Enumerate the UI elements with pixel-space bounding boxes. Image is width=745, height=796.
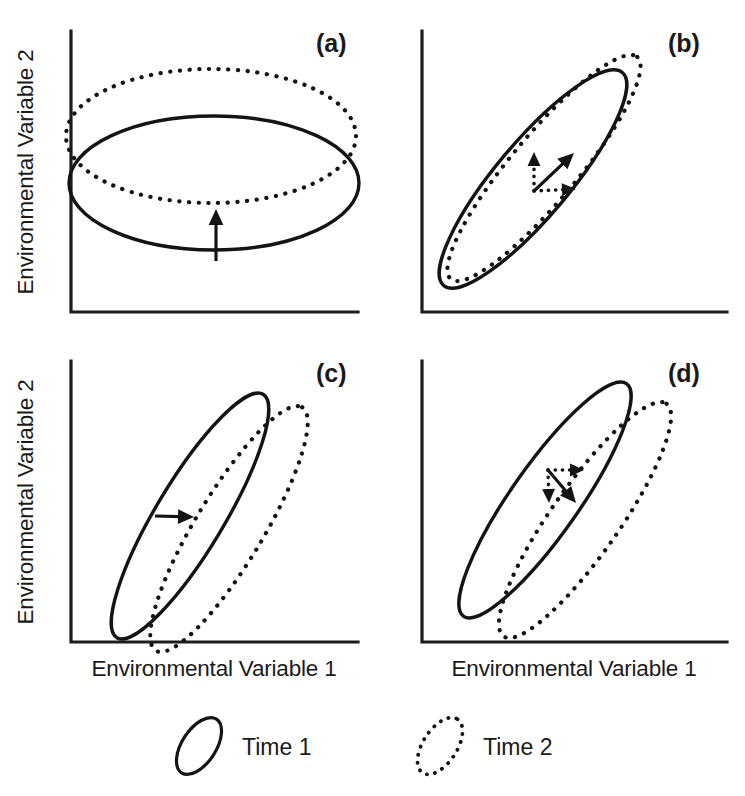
panel-a-niche-time1	[69, 116, 359, 250]
panel-d-arrow-1-head	[542, 489, 555, 503]
panel-c-arrow-0-head	[178, 509, 194, 524]
figure-root: (a)(b)(c)(d) Environmental Variable 1Env…	[0, 0, 745, 796]
panel-a-arrow-0-head	[209, 209, 224, 225]
panel-b-niche-time2	[426, 36, 663, 301]
panel-b-axes	[422, 31, 727, 312]
panel-d-niche-time2	[476, 384, 695, 656]
panel-a-label: (a)	[316, 29, 347, 57]
x-axis-title-0: Environmental Variable 1	[92, 656, 337, 681]
legend-label-time2: Time 2	[483, 734, 552, 760]
panel-b-arrow-0-head	[528, 152, 541, 166]
y-axis-title-2: Environmental Variable 2	[13, 50, 38, 295]
panel-a-axes	[71, 31, 358, 312]
panel-c-label: (c)	[316, 359, 347, 387]
panel-a: (a)	[66, 29, 359, 312]
panel-b-label: (b)	[668, 29, 700, 57]
y-axis-title-3: Environmental Variable 2	[13, 380, 38, 625]
panel-b-niche-time1	[415, 49, 650, 310]
legend-layer: Time 1Time 2	[167, 710, 552, 782]
legend-swatch-time2	[408, 710, 471, 782]
panel-b: (b)	[415, 29, 727, 312]
panel-b-arrow-2-shaft-dotted	[534, 190, 565, 191]
panel-d: (d)	[422, 359, 727, 656]
panel-d-arrow-1-shaft-dotted	[548, 470, 549, 492]
panel-c-niche-time2	[127, 390, 332, 668]
legend-item-time2: Time 2	[408, 710, 552, 782]
figure-canvas: (a)(b)(c)(d) Environmental Variable 1Env…	[0, 0, 745, 796]
panel-c: (c)	[71, 359, 358, 668]
panel-d-label: (d)	[668, 359, 700, 387]
panel-d-arrow-0-head	[570, 464, 584, 477]
panel-d-niche-time1	[436, 364, 655, 636]
x-axis-title-1: Environmental Variable 1	[452, 656, 697, 681]
legend-item-time1: Time 1	[167, 710, 311, 782]
panel-b-arrow-1-shaft-solid	[534, 162, 564, 191]
panel-c-arrow-0-shaft-solid	[155, 516, 181, 517]
legend-swatch-time1	[167, 710, 230, 782]
legend-label-time1: Time 1	[242, 734, 311, 760]
panels-layer: (a)(b)(c)(d)	[66, 29, 727, 668]
